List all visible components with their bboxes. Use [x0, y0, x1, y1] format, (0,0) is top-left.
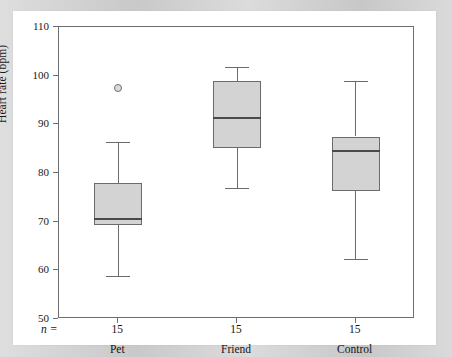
y-tick-label: 110	[23, 20, 49, 32]
upper-whisker-cap	[106, 142, 130, 143]
median-line	[332, 150, 380, 152]
upper-whisker-line	[355, 81, 356, 137]
upper-whisker-cap	[225, 67, 249, 68]
upper-whisker-line	[118, 142, 119, 183]
lower-whisker-line	[355, 191, 356, 259]
upper-whisker-line	[237, 67, 238, 81]
y-tick-label: 70	[23, 215, 49, 227]
n-equals-label: n =	[41, 323, 57, 335]
x-count-label: 15	[230, 323, 242, 335]
plot-area-frame	[58, 26, 414, 318]
x-count-label: 15	[112, 323, 124, 335]
lower-whisker-cap	[344, 259, 368, 260]
box-iqr-rect	[332, 137, 380, 192]
y-tick-label: 90	[23, 117, 49, 129]
lower-whisker-cap	[225, 188, 249, 189]
y-tick-label: 100	[23, 69, 49, 81]
y-tick-mark	[53, 318, 58, 319]
lower-whisker-line	[237, 148, 238, 188]
x-count-label: 15	[349, 323, 361, 335]
lower-whisker-line	[118, 225, 119, 276]
x-category-label: Pet	[110, 343, 125, 355]
outlier-point	[114, 84, 122, 92]
x-category-label: Friend	[221, 343, 251, 355]
lower-whisker-cap	[106, 276, 130, 277]
screenshot-page: Heart rate (bpm) 5060708090100110 n = 15…	[0, 0, 452, 357]
y-tick-label: 80	[23, 166, 49, 178]
median-line	[213, 117, 261, 119]
box-plot-figure: Heart rate (bpm) 5060708090100110 n = 15…	[13, 11, 436, 345]
box-iqr-rect	[213, 81, 261, 148]
y-axis-label: Heart rate (bpm)	[0, 45, 8, 123]
y-tick-label: 60	[23, 263, 49, 275]
median-line	[94, 218, 142, 220]
upper-whisker-cap	[344, 81, 368, 82]
x-category-label: Control	[337, 343, 372, 355]
figure-paper: Heart rate (bpm) 5060708090100110 n = 15…	[13, 11, 436, 345]
